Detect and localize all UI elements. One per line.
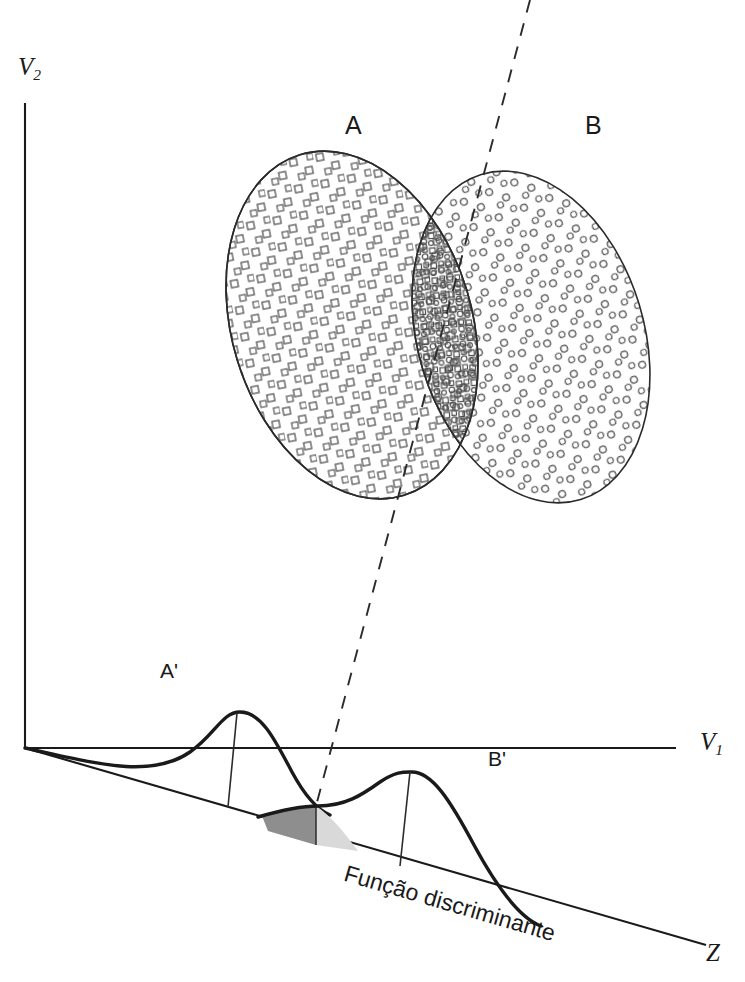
v1-axis-label: V1 xyxy=(700,729,723,754)
overlap-shade-right xyxy=(316,806,358,851)
z-axis-label: Z xyxy=(706,940,720,965)
figure-canvas: V2 V1 Z A B A' B' Função discriminante xyxy=(0,0,745,982)
curve-b-prime-peak-line xyxy=(400,772,410,866)
group-b-label: B xyxy=(585,113,602,138)
curve-a-prime xyxy=(25,712,330,815)
curve-b-prime-label: B' xyxy=(488,748,506,769)
group-a-label: A xyxy=(345,113,362,138)
v2-axis-label: V2 xyxy=(18,54,41,79)
curve-a-prime-peak-line xyxy=(228,713,237,807)
z-axis-line xyxy=(25,748,706,945)
curve-a-prime-label: A' xyxy=(160,660,178,681)
diagram-svg xyxy=(0,0,745,982)
overlap-shade-left xyxy=(262,806,316,845)
